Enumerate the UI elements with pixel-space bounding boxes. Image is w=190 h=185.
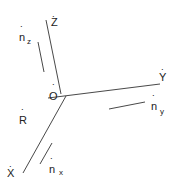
point-r-label: R [19, 114, 27, 126]
x-axis-line [23, 96, 66, 173]
x-axis-label: X [7, 167, 15, 179]
n-y-arrow [109, 102, 145, 109]
origin-label: O [49, 90, 58, 102]
n-y-sub: y [160, 107, 164, 116]
n-z-sub: z [27, 37, 31, 46]
coordinate-diagram: ˙ Z ˙ Y ˙ X ˙ O ˙ R ˙ n z ˙ n y ˙ n x [0, 0, 190, 185]
y-axis-line [48, 84, 160, 98]
n-z-base: n [19, 31, 25, 43]
n-y-base: n [151, 100, 157, 112]
n-x-base: n [49, 163, 55, 175]
y-axis-label: Y [159, 71, 167, 83]
z-axis-label: Z [51, 16, 58, 28]
n-x-sub: x [59, 168, 63, 177]
n-z-arrow [38, 42, 44, 72]
